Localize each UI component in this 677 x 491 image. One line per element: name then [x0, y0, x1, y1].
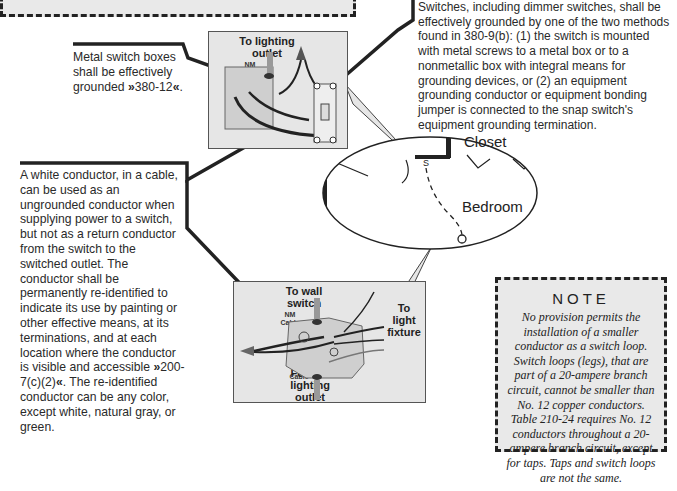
callout-white-conductor: A white conductor, in a cable, can be us… [20, 168, 185, 434]
label-bedroom: Bedroom [462, 198, 523, 215]
outlet-box-illustration [234, 282, 427, 404]
switch-symbol: S [423, 158, 429, 168]
floor-plan [322, 130, 560, 249]
switch-box-illustration [209, 32, 349, 150]
photo-outlet-box: To wall switch NM Cable To light fixture… [233, 281, 426, 403]
label-closet: Closet [464, 133, 507, 150]
note-title: NOTE [504, 290, 658, 307]
ref-open-marker: » [128, 80, 135, 94]
light-fixture-symbol [458, 235, 466, 243]
ref-close-marker: « [56, 375, 63, 389]
callout-switch-grounding: Switches, including dimmer switches, sha… [418, 0, 670, 132]
leader-line-white-conductor-bottom [187, 180, 252, 296]
callout-white-conductor-text: A white conductor, in a cable, can be us… [20, 168, 178, 374]
note-box: NOTE No provision permits the installati… [495, 277, 667, 452]
photo-switch-box: To lighting outlet NM Cable [208, 31, 348, 149]
note-body: No provision permits the installation of… [504, 310, 658, 485]
ref-380-12: 380-12 [135, 80, 173, 94]
callout-metal-boxes: Metal switch boxes shall be effectively … [73, 50, 183, 95]
